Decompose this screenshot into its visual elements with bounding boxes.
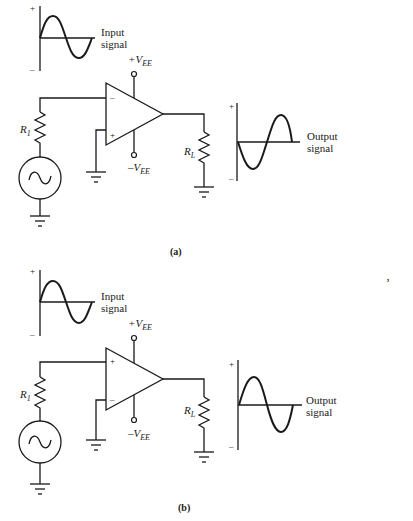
output-plus-sign: + xyxy=(229,101,234,111)
load-resistor-rl xyxy=(199,132,209,187)
ground-icon xyxy=(30,216,50,226)
output-signal-label-2: signal xyxy=(307,142,333,154)
opamp-noninverting-input: + xyxy=(110,356,115,366)
output-signal-label: Output xyxy=(307,130,338,142)
output-plus-sign: + xyxy=(229,359,234,369)
input-signal-label: Input xyxy=(101,26,124,38)
source-resistor-r1 xyxy=(35,377,45,421)
supply-pos-label: +VEE xyxy=(128,53,152,68)
panel-b: + – Input signal + – +VEE –VEE R1 xyxy=(19,266,337,514)
rl-label: RL xyxy=(183,145,196,160)
input-signal-plot: + – Input signal xyxy=(29,3,127,74)
input-network: R1 xyxy=(19,98,106,226)
output-signal-label-2: signal xyxy=(306,406,332,418)
ac-tilde-icon xyxy=(29,436,51,448)
input-plus-sign: + xyxy=(30,3,35,13)
supply-pos-terminal xyxy=(132,336,137,341)
opamp-inverting-input: – xyxy=(109,92,115,102)
input-wire xyxy=(40,362,106,377)
output-signal-plot: + – Output signal xyxy=(228,359,337,451)
input-minus-sign: – xyxy=(29,64,35,74)
supply-pos-terminal xyxy=(132,72,137,77)
ground-icon xyxy=(194,187,214,197)
supply-neg-terminal xyxy=(132,418,137,423)
supply-neg-terminal xyxy=(132,153,137,158)
supply-pos-label: +VEE xyxy=(128,317,152,332)
opamp-noninverting-input: + xyxy=(110,130,115,140)
input-signal-label: Input xyxy=(101,290,124,302)
caption-a: (a) xyxy=(170,246,182,258)
output-minus-sign: – xyxy=(228,441,234,451)
source-resistor-r1 xyxy=(35,112,45,157)
output-network: RL xyxy=(163,379,214,462)
noninv-ground-wire xyxy=(96,130,106,172)
opamp-inverting-input: – xyxy=(109,394,115,404)
opamp: – + +VEE –VEE xyxy=(106,53,163,176)
input-plus-sign: + xyxy=(30,266,35,276)
ground-icon xyxy=(194,452,214,462)
opamp: + – +VEE –VEE xyxy=(106,317,163,442)
ground-icon xyxy=(86,440,106,450)
output-signal-plot: + – Output signal xyxy=(228,101,338,183)
ground-icon xyxy=(30,484,50,494)
supply-neg-label: –VEE xyxy=(127,427,150,442)
input-signal-plot: + – Input signal xyxy=(29,266,127,339)
output-network: RL xyxy=(163,114,214,197)
supply-neg-label: –VEE xyxy=(127,161,150,176)
input-signal-label-2: signal xyxy=(101,38,127,50)
output-wire xyxy=(163,114,204,132)
panel-a: + – Input signal – + +VEE –VEE R1 xyxy=(19,3,338,258)
inv-ground-wire xyxy=(96,400,106,440)
input-sine-wave xyxy=(40,16,92,58)
ac-tilde-icon xyxy=(29,172,51,184)
rl-label: RL xyxy=(183,404,196,419)
r1-label: R1 xyxy=(19,123,31,138)
load-resistor-rl xyxy=(199,397,209,452)
ground-icon xyxy=(86,172,106,182)
input-signal-label-2: signal xyxy=(101,302,127,314)
input-minus-sign: – xyxy=(29,329,35,339)
stray-mark: ‚ xyxy=(386,269,390,283)
r1-label: R1 xyxy=(19,388,31,403)
output-wire xyxy=(163,379,204,397)
input-network: R1 xyxy=(19,362,106,494)
opamp-figure: + – Input signal – + +VEE –VEE R1 xyxy=(0,0,413,521)
caption-b: (b) xyxy=(178,502,190,514)
output-minus-sign: – xyxy=(228,173,234,183)
output-signal-label: Output xyxy=(306,394,337,406)
input-wire xyxy=(40,98,106,112)
